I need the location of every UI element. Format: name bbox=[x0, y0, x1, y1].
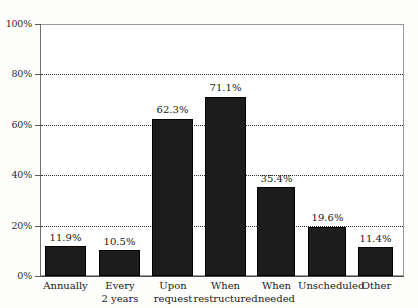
bar-label-annually: 11.9% bbox=[40, 232, 91, 243]
y-tick-mark-40 bbox=[35, 175, 41, 176]
bar-label-when-needed: 35.4% bbox=[251, 173, 302, 184]
x-label-other-line1: Other bbox=[362, 280, 391, 291]
y-tick-mark-20 bbox=[35, 226, 41, 227]
y-tick-mark-60 bbox=[35, 125, 41, 126]
x-label-other: Other bbox=[354, 280, 399, 293]
gridline-80 bbox=[41, 74, 403, 75]
bar-label-unscheduled: 19.6% bbox=[302, 212, 353, 223]
y-tick-mark-0 bbox=[35, 276, 41, 277]
x-label-upon-request-line1: Upon bbox=[159, 280, 186, 291]
y-tick-label-20: 20% bbox=[11, 221, 32, 231]
x-label-every-2-years-line2: 2 years bbox=[90, 293, 150, 306]
bar-label-every-2-years: 10.5% bbox=[94, 236, 145, 247]
bar-label-other: 11.4% bbox=[350, 233, 401, 244]
bar-every-2-years[interactable] bbox=[99, 250, 140, 276]
x-label-every-2-years: Every 2 years bbox=[90, 280, 150, 305]
bar-annually[interactable] bbox=[45, 246, 86, 276]
y-tick-label-60: 60% bbox=[11, 120, 32, 130]
x-label-unscheduled: Unscheduled bbox=[298, 280, 356, 293]
x-label-annually: Annually bbox=[33, 280, 98, 293]
bar-upon-request[interactable] bbox=[152, 119, 193, 276]
x-label-when-restructured-line1: When bbox=[211, 280, 240, 291]
x-axis-line bbox=[40, 276, 404, 277]
bar-label-upon-request: 62.3% bbox=[147, 104, 198, 115]
y-tick-mark-80 bbox=[35, 74, 41, 75]
y-tick-mark-100 bbox=[35, 24, 41, 25]
x-label-when-needed-line1: When bbox=[262, 280, 291, 291]
x-label-when-needed-line2: needed bbox=[249, 293, 304, 306]
y-tick-label-40: 40% bbox=[11, 170, 32, 180]
bar-when-restructured[interactable] bbox=[205, 97, 246, 276]
y-tick-label-0: 0% bbox=[17, 271, 32, 281]
bar-other[interactable] bbox=[358, 247, 393, 276]
bar-when-needed[interactable] bbox=[257, 187, 295, 276]
bar-chart: 100% 80% 60% 40% 20% 0% 11.9% 10.5% 62.3… bbox=[0, 0, 418, 308]
x-label-annually-line1: Annually bbox=[43, 280, 88, 291]
y-tick-label-100: 100% bbox=[6, 19, 32, 29]
bar-unscheduled[interactable] bbox=[308, 227, 346, 276]
x-label-when-needed: When needed bbox=[249, 280, 304, 305]
bar-label-when-restructured: 71.1% bbox=[200, 82, 251, 93]
x-label-every-2-years-line1: Every bbox=[105, 280, 134, 291]
y-tick-label-80: 80% bbox=[11, 69, 32, 79]
